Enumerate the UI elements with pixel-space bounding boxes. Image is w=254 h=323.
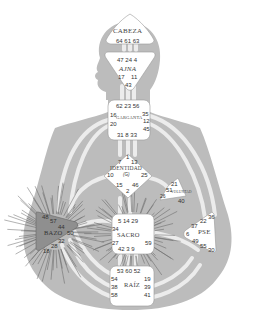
root-gates-top: 53 60 52 [117,268,140,274]
identity-gate-1: 1 [126,154,129,160]
will-gate-26: 26 [160,194,166,199]
head-gates: 64 61 63 [116,38,139,44]
identity-center-sub: (G) [123,173,130,178]
identity-gate-46: 46 [132,182,139,188]
ajna-center-label: AJNA [119,66,136,73]
spleen-gate-48: 48 [42,214,49,220]
spleen-gate-57: 57 [50,218,57,224]
solar-plexus-gate-55: 55 [200,243,207,249]
throat-gate-12: 12 [143,118,150,124]
solar-plexus-gate-36: 36 [208,214,215,220]
root-gate-19: 19 [144,276,151,282]
spleen-gate-18: 18 [43,248,50,254]
root-gate-38: 38 [111,284,118,290]
root-gate-54: 54 [111,276,118,282]
root-gate-39: 39 [144,284,151,290]
ajna-gate-17: 17 [118,74,125,80]
spleen-center-label: BAZO [44,230,63,237]
solar-plexus-gate-30: 30 [208,247,215,253]
spleen-gate-32: 32 [58,238,65,244]
throat-gates-top: 62 23 56 [116,103,139,109]
solar-plexus-gate-6: 6 [186,231,189,237]
sacral-gates-top: 5 14 29 [118,218,138,224]
solar-plexus-gate-37: 37 [191,223,198,229]
solar-plexus-gate-49: 49 [192,238,199,244]
solar-plexus-gate-22: 22 [200,218,207,224]
throat-center-label: GARGANTA [116,116,143,121]
throat-gate-35: 35 [142,111,149,117]
identity-gate-2: 2 [126,188,129,194]
will-center-label: VOLUNTAD [171,191,192,195]
solar-plexus-center-label: PSE [198,229,211,236]
bodygraph-graphic [0,0,254,323]
throat-gate-45: 45 [143,126,150,132]
spleen-gate-28: 28 [51,243,58,249]
root-center-label: RAÍZ [124,282,140,289]
throat-gate-20: 20 [110,121,117,127]
spleen-gate-50: 50 [67,230,74,236]
throat-gates-bottom: 31 8 33 [117,132,137,138]
identity-center-label: IDENTIDAD [110,166,142,172]
identity-gate-15: 15 [116,182,123,188]
identity-gate-10: 10 [107,172,114,178]
sacral-gate-59: 59 [145,240,152,246]
root-gate-41: 41 [144,292,151,298]
ajna-gate-11: 11 [131,74,137,80]
will-gate-40: 40 [178,198,185,204]
sacral-gates-bottom: 42 3 9 [118,246,135,252]
ajna-gate-43: 43 [125,82,132,88]
bodygraph: CABEZA 64 61 63 47 24 4 AJNA 17 11 43 62… [0,0,254,323]
head-center-label: CABEZA [113,28,142,35]
identity-gate-25: 25 [141,172,148,178]
root-gate-58: 58 [111,292,118,298]
sacral-center-label: SACRO [117,232,140,239]
ajna-gates-top: 47 24 4 [117,57,137,63]
